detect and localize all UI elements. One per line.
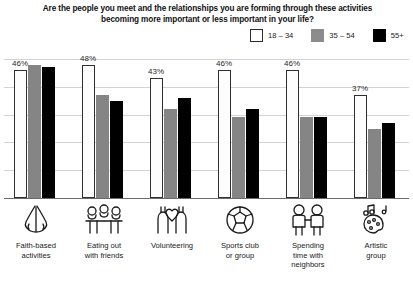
category-label: Spendingtime withneighbors — [272, 241, 344, 270]
black-square-swatch — [373, 29, 386, 42]
bar-value-label: 43% — [148, 67, 164, 76]
bar[interactable] — [314, 117, 327, 198]
bar[interactable] — [246, 109, 259, 198]
bar-group: 46% — [14, 59, 55, 198]
legend-label: 55+ — [391, 31, 404, 40]
category-axis: Faith-basedactivitiesEating outwith frie… — [0, 199, 413, 303]
gridline — [4, 87, 409, 88]
category-label: Volunteering — [136, 241, 208, 251]
bar-group: 46% — [218, 59, 259, 198]
bar-value-label: 46% — [216, 59, 232, 68]
category-6: Artisticgroup — [340, 199, 412, 260]
bar[interactable] — [110, 101, 123, 198]
gray-square-swatch — [311, 29, 324, 42]
category-label: Faith-basedactivities — [0, 241, 72, 260]
legend-item-35-54[interactable]: 35 – 54 — [311, 29, 354, 42]
bar-value-label: 48% — [80, 54, 96, 63]
gridline — [4, 115, 409, 116]
dining-table-icon — [68, 199, 140, 237]
bar-group: 43% — [150, 59, 191, 198]
legend-label: 35 – 54 — [329, 31, 354, 40]
white-square-swatch — [250, 29, 263, 42]
bar[interactable] — [382, 123, 395, 198]
bar[interactable] — [286, 70, 299, 198]
category-label: Sports clubor group — [204, 241, 276, 260]
praying-hands-icon — [0, 199, 72, 237]
two-neighbors-icon — [272, 199, 344, 237]
legend-label: 18 – 34 — [268, 31, 293, 40]
bar[interactable] — [300, 117, 313, 198]
plot-area: 46%48%43%46%46%37% — [0, 59, 413, 198]
chart-legend: 18 – 34 35 – 54 55+ — [250, 29, 404, 42]
bar[interactable] — [14, 70, 27, 198]
bar[interactable] — [354, 95, 367, 198]
gridline — [4, 59, 409, 60]
gridline — [4, 142, 409, 143]
bar[interactable] — [368, 129, 381, 199]
bar[interactable] — [96, 95, 109, 198]
bar-group: 46% — [286, 59, 327, 198]
category-3: Volunteering — [136, 199, 208, 251]
category-label: Eating outwith friends — [68, 241, 140, 260]
bar[interactable] — [164, 109, 177, 198]
bar-group: 37% — [354, 59, 395, 198]
category-label: Artisticgroup — [340, 241, 412, 260]
bar[interactable] — [218, 70, 231, 198]
bar[interactable] — [150, 78, 163, 198]
legend-item-55-plus[interactable]: 55+ — [373, 29, 404, 42]
category-2: Eating outwith friends — [68, 199, 140, 260]
bar[interactable] — [28, 65, 41, 198]
bar[interactable] — [232, 117, 245, 198]
category-1: Faith-basedactivities — [0, 199, 72, 260]
soccer-ball-icon — [204, 199, 276, 237]
chart-container: Are the people you meet and the relation… — [0, 0, 413, 303]
bar-group: 48% — [82, 59, 123, 198]
category-4: Sports clubor group — [204, 199, 276, 260]
bar-value-label: 46% — [12, 59, 28, 68]
category-5: Spendingtime withneighbors — [272, 199, 344, 270]
legend-item-18-34[interactable]: 18 – 34 — [250, 29, 293, 42]
bar[interactable] — [178, 98, 191, 198]
chart-title: Are the people you meet and the relation… — [30, 3, 385, 25]
bar[interactable] — [82, 65, 95, 198]
bar-value-label: 37% — [352, 84, 368, 93]
bar-value-label: 46% — [284, 59, 300, 68]
bar[interactable] — [42, 67, 55, 198]
raised-hands-heart-icon — [136, 199, 208, 237]
gridline — [4, 170, 409, 171]
music-palette-icon — [340, 199, 412, 237]
